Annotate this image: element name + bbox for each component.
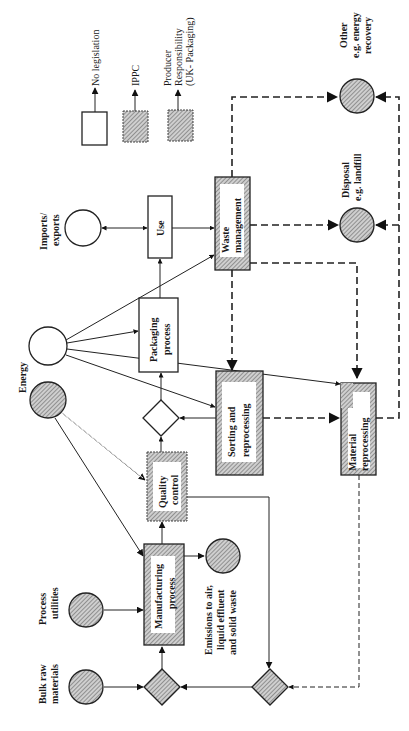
energy-circle (29, 327, 67, 365)
node-manufacturing-process: Manufacturing process (144, 544, 184, 645)
node-process-utilities: Process utilities (37, 587, 103, 627)
bulk-raw-materials-circle (69, 670, 103, 704)
disposal-label: Disposal e.g. landfill (340, 153, 363, 201)
node-disposal: Disposal e.g. landfill (340, 153, 374, 242)
node-imports-exports: Imports/ exports (38, 210, 101, 250)
node-quality-control: Quality control (147, 452, 187, 521)
legend-label-no-legislation: No legislation (90, 30, 101, 86)
node-packaging-process: Packaging process (139, 298, 178, 372)
node-use: Use (148, 196, 172, 258)
other-circle (340, 79, 374, 113)
node-material-reprocessing: Material reprocessing (341, 383, 376, 475)
use-label: Use (155, 220, 166, 236)
legend-label-producer-responsibility: Producer Responsibility (UK- Packaging) (162, 17, 196, 86)
disposal-circle (340, 208, 374, 242)
legend-swatch-ippc (123, 111, 148, 142)
emissions-label: Emissions to air, liquid effluent and so… (203, 583, 238, 655)
legend-swatch-no-legislation (82, 112, 107, 145)
node-other-energy-recovery: Other e.g. energy recovery (338, 10, 374, 113)
energy-ippc-circle (30, 382, 66, 418)
legend-label-ippc: IPPC (130, 65, 141, 86)
legend: No legislation IPPC Producer Responsibil… (82, 17, 196, 145)
decision-diamond-recycle-input (252, 669, 288, 705)
node-emissions: Emissions to air, liquid effluent and so… (203, 539, 240, 655)
legend-swatch-producer-responsibility (168, 110, 193, 141)
node-sorting-reprocessing: Sorting and reprocessing (216, 371, 263, 475)
imports-exports-circle (65, 210, 101, 246)
decision-diamond-packaging (143, 400, 179, 436)
emissions-circle (206, 539, 240, 573)
quality-control-label: Quality control (157, 473, 180, 508)
other-label: Other e.g. energy recovery (338, 10, 373, 58)
imports-exports-label: Imports/ exports (38, 210, 61, 250)
process-utilities-circle (69, 593, 103, 627)
energy-label: Energy (17, 362, 28, 393)
node-bulk-raw-materials: Bulk raw materials (37, 662, 103, 704)
process-utilities-label: Process utilities (37, 587, 60, 625)
packaging-lifecycle-diagram: No legislation IPPC Producer Responsibil… (0, 0, 409, 731)
bulk-raw-materials-label: Bulk raw materials (37, 662, 60, 704)
decision-diamond-raw-input (144, 669, 180, 705)
node-waste-management: Waste management (215, 177, 250, 270)
